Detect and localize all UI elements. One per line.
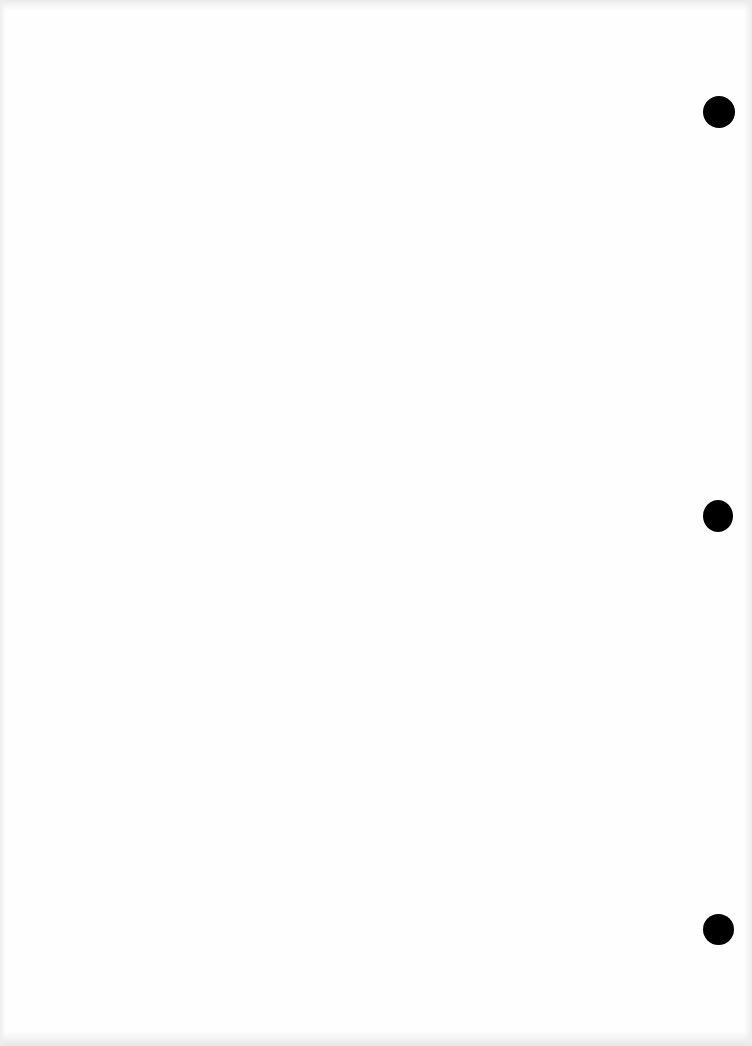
scan-edge-right [744,0,752,1046]
punch-hole-top [703,96,735,128]
scan-edge-top [0,0,752,10]
scanned-page [0,0,752,1046]
scan-edge-bottom [0,1032,752,1046]
punch-hole-bottom [703,914,734,945]
scan-edge-left [0,0,6,1046]
punch-hole-middle [703,500,733,532]
